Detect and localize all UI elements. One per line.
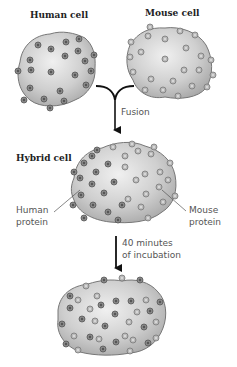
incubation-label-line2: of incubation <box>122 250 181 261</box>
mouse-protein-label-line1: Mouse <box>189 205 218 216</box>
hybrid-cell <box>70 141 178 223</box>
fusion-label: Fusion <box>121 107 150 118</box>
incubation-label-line1: 40 minutes <box>122 238 173 249</box>
human-protein-label-line1: Human <box>16 205 48 216</box>
mouse-protein-label-line2: protein <box>189 217 221 228</box>
diagram-canvas <box>0 0 237 367</box>
mouse-cell-label: Mouse cell <box>145 8 199 19</box>
mouse-cell <box>127 24 216 99</box>
human-protein-label-line2: protein <box>16 217 48 228</box>
hybrid-cell-label: Hybrid cell <box>16 153 72 164</box>
mixed-hybrid-cell <box>58 275 166 355</box>
human-cell-label: Human cell <box>30 10 88 21</box>
human-cell <box>15 32 97 111</box>
